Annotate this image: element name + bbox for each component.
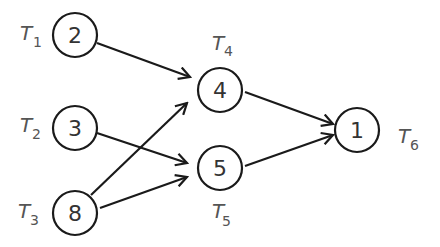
node-weight: 4: [213, 78, 227, 103]
label-t6: T 6: [398, 124, 419, 153]
task-graph-diagram: 2 3 8 4 5 1 T 1 T 2: [0, 0, 440, 247]
node-weight: 8: [68, 201, 82, 226]
svg-text:4: 4: [224, 43, 233, 59]
svg-text:2: 2: [32, 126, 41, 142]
edge-t2-t5: [97, 133, 187, 163]
node-weight: 1: [350, 118, 364, 143]
label-t2: T 2: [20, 113, 41, 142]
node-t5: 5: [198, 146, 242, 190]
edge-t5-t6: [245, 135, 333, 166]
graph-svg: 2 3 8 4 5 1 T 1 T 2: [0, 0, 440, 247]
node-weight: 5: [213, 156, 227, 181]
edge-t1-t4: [97, 43, 190, 77]
label-t5: T 5: [212, 199, 231, 229]
node-weight: 3: [68, 116, 82, 141]
node-t6: 1: [335, 108, 379, 152]
edge-t3-t5: [100, 177, 187, 208]
node-t3: 8: [53, 191, 97, 235]
svg-text:T: T: [20, 21, 34, 45]
node-t4: 4: [198, 68, 242, 112]
svg-text:1: 1: [33, 34, 42, 50]
node-weight: 2: [68, 23, 82, 48]
node-t2: 3: [53, 106, 97, 150]
label-t4: T 4: [212, 31, 233, 59]
label-t3: T 3: [18, 199, 39, 228]
svg-text:6: 6: [410, 137, 419, 153]
label-t1: T 1: [20, 21, 42, 50]
svg-text:3: 3: [30, 212, 39, 228]
svg-text:5: 5: [222, 213, 231, 229]
node-t1: 2: [53, 13, 97, 57]
edge-t4-t6: [245, 92, 333, 124]
